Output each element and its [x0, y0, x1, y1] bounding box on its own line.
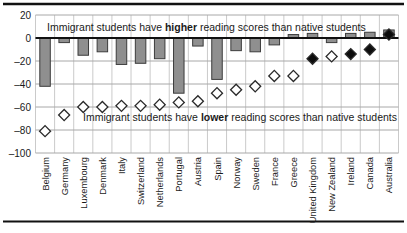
bar-italy: [116, 38, 127, 64]
x-label-canada: Canada: [365, 156, 375, 189]
diamond-germany: [59, 110, 70, 121]
x-label-australia: Australia: [384, 156, 394, 193]
y-tick-label: –60: [14, 102, 31, 113]
y-tick-label: –20: [14, 56, 31, 67]
x-label-netherlands: Netherlands: [155, 157, 165, 207]
bar-netherlands: [154, 38, 165, 59]
diamond-italy: [116, 100, 127, 111]
diamond-spain: [211, 88, 222, 99]
bar-france: [269, 38, 280, 45]
bar-switzerland: [135, 38, 146, 63]
y-tick-label: –40: [14, 79, 31, 90]
diamond-united-kingdom: [307, 53, 318, 64]
x-label-united-kingdom: United Kingdom: [308, 157, 318, 223]
y-tick-label: –100: [9, 148, 32, 159]
x-label-ireland: Ireland: [346, 157, 356, 185]
diamond-canada: [364, 44, 375, 55]
bar-austria: [193, 38, 204, 46]
bar-portugal: [174, 38, 185, 93]
x-label-greece: Greece: [289, 157, 299, 188]
diamond-switzerland: [135, 100, 146, 111]
bar-norway: [231, 38, 242, 51]
x-label-new-zealand: New Zealand: [327, 157, 337, 212]
diamond-ireland: [345, 49, 356, 60]
x-label-portugal: Portugal: [174, 157, 184, 192]
diamond-norway: [231, 84, 242, 95]
x-label-luxembourg: Luxembourg: [79, 157, 89, 209]
reading-score-difference-chart: 200–20–40–60–80–100Immigrant students ha…: [0, 0, 407, 233]
x-label-spain: Spain: [213, 157, 223, 181]
x-label-austria: Austria: [193, 156, 203, 186]
diamond-france: [269, 70, 280, 81]
annotation-lower: Immigrant students have lower reading sc…: [83, 111, 397, 123]
diamond-portugal: [173, 97, 184, 108]
diamond-new-zealand: [326, 51, 337, 62]
x-label-germany: Germany: [60, 157, 70, 196]
chart-svg: 200–20–40–60–80–100Immigrant students ha…: [0, 0, 407, 233]
y-tick-label: 0: [25, 33, 31, 44]
x-label-france: France: [270, 157, 280, 186]
diamond-greece: [288, 70, 299, 81]
bar-luxembourg: [78, 38, 89, 55]
diamond-belgium: [40, 126, 51, 137]
y-tick-label: 20: [20, 10, 32, 21]
bar-denmark: [97, 38, 108, 52]
x-label-belgium: Belgium: [41, 157, 51, 191]
bar-sweden: [250, 38, 260, 52]
x-label-switzerland: Switzerland: [136, 157, 146, 205]
x-label-sweden: Sweden: [251, 157, 261, 191]
x-label-norway: Norway: [232, 157, 242, 189]
x-label-italy: Italy: [117, 157, 127, 174]
diamond-austria: [192, 96, 203, 107]
bar-belgium: [40, 38, 51, 86]
annotation-higher: Immigrant students have higher reading s…: [47, 21, 366, 33]
diamond-sweden: [250, 81, 261, 92]
bar-spain: [212, 38, 223, 79]
diamond-netherlands: [154, 99, 165, 110]
y-tick-label: –80: [14, 125, 31, 136]
x-label-denmark: Denmark: [98, 157, 108, 195]
